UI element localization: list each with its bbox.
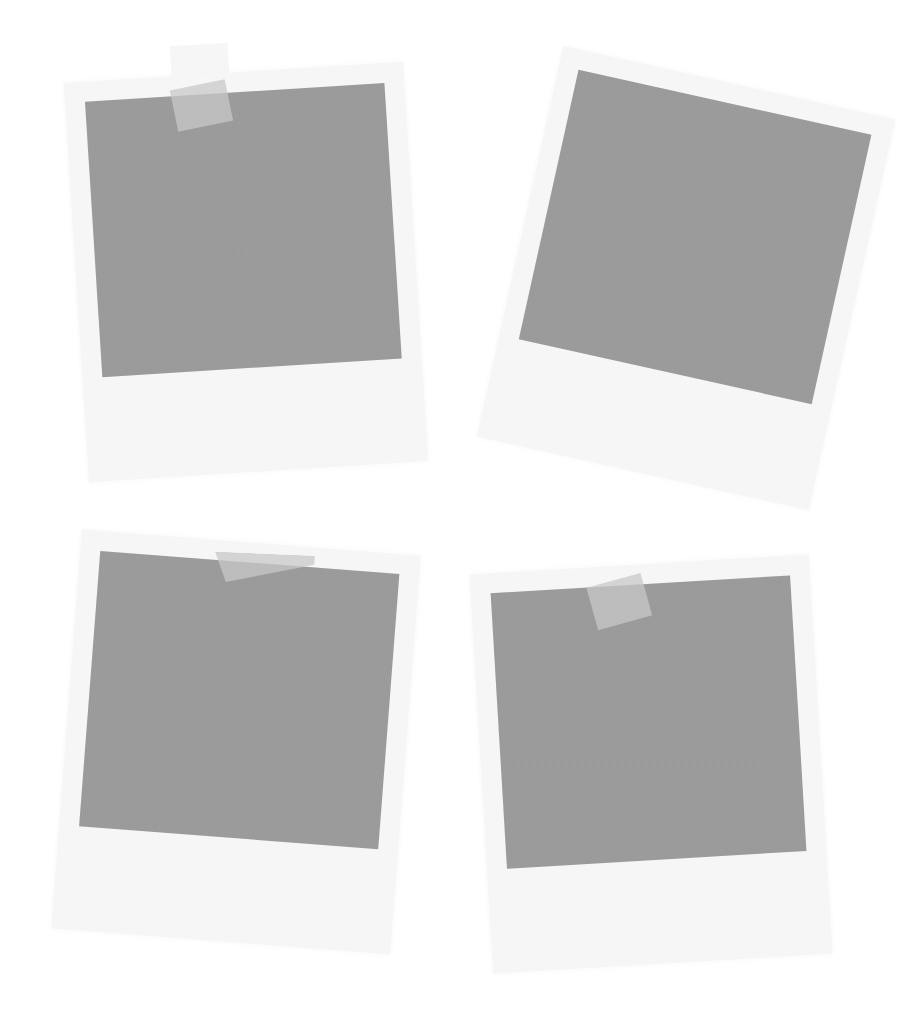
polaroid-collage <box>0 0 921 1028</box>
tape-extension <box>170 43 230 77</box>
polaroid-frame-bottom-left <box>51 530 421 955</box>
photo-placeholder <box>491 575 807 868</box>
polaroid-frame-bottom-right <box>469 554 832 973</box>
photo-placeholder <box>79 551 399 849</box>
photo-placeholder <box>85 83 402 377</box>
polaroid-frame-top-left <box>64 62 428 483</box>
photo-placeholder <box>519 70 872 404</box>
polaroid-frame-top-right <box>477 46 896 510</box>
